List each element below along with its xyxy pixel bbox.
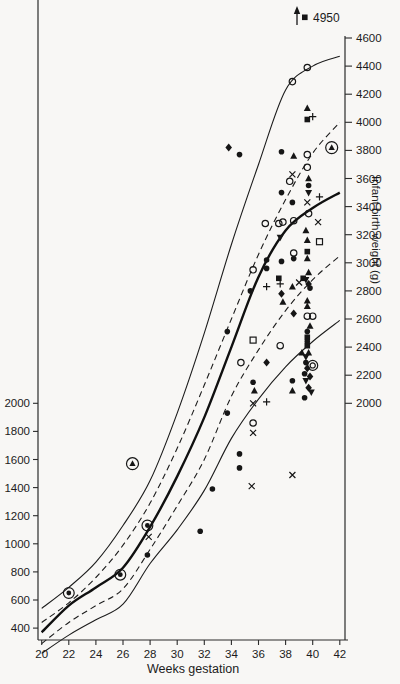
data-point-dot-circled: [63, 588, 74, 599]
data-point-x: [249, 483, 255, 489]
data-point-dot: [302, 395, 308, 401]
data-point-circle: [304, 151, 310, 157]
x-axis-title: Weeks gestation: [38, 662, 348, 676]
data-point-plus: [309, 113, 316, 120]
data-point-dot: [264, 266, 270, 272]
data-point-tri: [304, 303, 311, 310]
x-axis-tick-label: 32: [198, 648, 211, 660]
data-point-circle: [262, 220, 268, 226]
data-point-x: [296, 280, 302, 286]
data-point-diamond: [263, 359, 270, 367]
data-point-tri: [302, 227, 309, 234]
data-point-diamond: [290, 309, 297, 317]
data-point-diamond: [278, 290, 285, 298]
x-axis-tick-label: 42: [333, 648, 346, 660]
data-point-tri-down: [302, 354, 309, 361]
data-point-dot: [279, 190, 285, 196]
x-axis-tick-label: 24: [90, 648, 103, 660]
data-point-circle: [287, 178, 293, 184]
data-point-x: [304, 199, 310, 205]
data-point-dot: [237, 465, 243, 471]
data-point-dot: [210, 486, 216, 492]
data-point-sq: [305, 343, 311, 349]
data-point-tri: [304, 237, 311, 244]
data-point-tri: [289, 283, 296, 290]
data-point-circle: [291, 250, 297, 256]
scatter-chart-canvas: 2000180016001400120010008006004004600440…: [0, 0, 400, 684]
data-point-circle: [280, 219, 286, 225]
right-axis-tick-label: 2200: [356, 369, 382, 381]
data-point-circle: [250, 420, 256, 426]
data-point-circle: [238, 359, 244, 365]
data-point-dot: [145, 552, 151, 558]
x-axis-tick-label: 30: [171, 648, 184, 660]
up-arrow-head-icon: [294, 6, 300, 14]
left-axis-tick-label: 600: [11, 594, 30, 606]
left-axis-tick-label: 1000: [4, 538, 30, 550]
curve-lower-outer-percentile: [42, 320, 340, 653]
right-axis-tick-label: 4000: [356, 116, 382, 128]
data-point-x: [289, 472, 295, 478]
data-point-tri: [307, 322, 314, 329]
data-point-x: [289, 171, 295, 177]
data-point-plus: [263, 283, 270, 290]
right-axis-tick-label: 4600: [356, 32, 382, 44]
data-point-tri: [304, 297, 311, 304]
data-point-sq-open: [317, 239, 323, 245]
data-point-dot: [279, 149, 285, 155]
data-point-tri-down: [305, 190, 312, 197]
data-point-x: [146, 534, 152, 540]
x-axis-tick-label: 40: [306, 648, 319, 660]
data-point-dot: [237, 152, 243, 158]
right-axis-tick-label: 2600: [356, 313, 382, 325]
left-axis-tick-label: 1800: [4, 425, 30, 437]
right-axis-tick-label: 2800: [356, 285, 382, 297]
data-point-plus: [316, 193, 323, 200]
curve-upper-outer-percentile: [42, 56, 340, 608]
data-point-dot: [290, 378, 296, 384]
data-point-plus: [263, 398, 270, 405]
data-point-dot: [248, 288, 254, 294]
axes: 2000180016001400120010008006004004600440…: [4, 0, 381, 660]
data-point-tri: [304, 105, 311, 112]
right-axis-tick-label: 4200: [356, 88, 382, 100]
data-point-sq: [305, 249, 311, 255]
data-point-dot: [307, 285, 313, 291]
data-point-tri-down: [308, 389, 315, 396]
data-point-dot: [290, 200, 296, 206]
scatter-points: [63, 64, 337, 598]
data-point-tri: [289, 387, 296, 394]
data-point-sq: [305, 117, 311, 123]
x-axis-tick-label: 22: [62, 648, 75, 660]
data-point-dot: [250, 379, 256, 385]
x-axis-tick-label: 34: [225, 648, 238, 660]
x-axis-tick-label: 28: [144, 648, 157, 660]
left-axis-tick-label: 1600: [4, 454, 30, 466]
data-point-x: [250, 430, 256, 436]
y-axis-title: Infant birth weight (g): [370, 176, 382, 284]
data-point-plus: [277, 280, 284, 287]
right-axis-tick-label: 2000: [356, 397, 382, 409]
data-point-tri-circled: [326, 142, 338, 154]
data-point-dot: [197, 528, 203, 534]
left-axis-tick-label: 2000: [4, 397, 30, 409]
data-point-tri-down: [302, 378, 309, 385]
right-axis-tick-label: 2400: [356, 341, 382, 353]
data-point-tri: [304, 255, 311, 262]
x-axis-tick-label: 36: [252, 648, 265, 660]
data-point-circle: [276, 220, 282, 226]
right-axis-tick-label: 3800: [356, 144, 382, 156]
offscale-value-label: 4950: [313, 11, 340, 25]
data-point-dot: [225, 410, 231, 416]
left-axis-tick-label: 1200: [4, 510, 30, 522]
percentile-curves: [42, 56, 340, 653]
data-point-dot: [279, 259, 285, 265]
data-point-dot: [264, 257, 270, 263]
data-point-dot: [225, 329, 231, 335]
data-point-dot: [302, 371, 308, 377]
data-point-tri: [251, 387, 258, 394]
data-point-x: [315, 219, 321, 225]
offscale-annotation: 4950: [294, 6, 340, 25]
data-point-circle: [304, 164, 310, 170]
data-point-dot: [291, 256, 297, 262]
